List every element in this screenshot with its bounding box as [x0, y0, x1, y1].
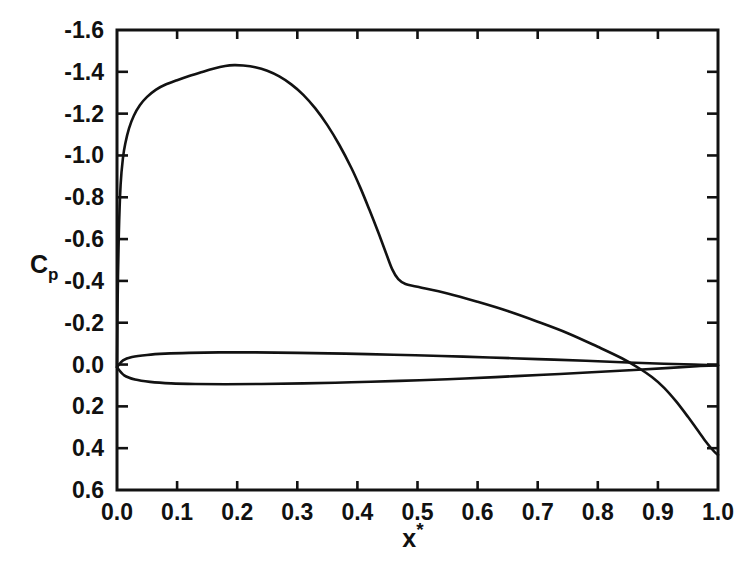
y-axis-title: Cp [30, 250, 58, 284]
x-tick-label-9: 0.9 [642, 499, 674, 525]
x-tick-label-6: 0.6 [462, 499, 494, 525]
y-tick-label-10: 0.4 [72, 435, 104, 461]
y-tick-label-7: -0.2 [64, 310, 104, 336]
curve-lens-lower-branch [117, 365, 718, 384]
x-tick-label-3: 0.3 [281, 499, 313, 525]
y-tick-label-2: -1.2 [64, 101, 104, 127]
plot-canvas: -1.6-1.4-1.2-1.0-0.8-0.6-0.4-0.20.00.20.… [0, 0, 747, 564]
y-tick-label-4: -0.8 [64, 184, 104, 210]
curve-lens-upper-branch [117, 352, 718, 367]
x-tick-label-10: 1.0 [702, 499, 734, 525]
x-axis-title: x* [402, 519, 424, 552]
x-tick-label-2: 0.2 [221, 499, 253, 525]
y-tick-label-0: -1.6 [64, 17, 104, 43]
data-curves [117, 65, 718, 455]
plot-frame [117, 30, 718, 490]
y-tick-label-8: 0.0 [72, 352, 104, 378]
x-tick-label-0: 0.0 [101, 499, 133, 525]
y-tick-label-3: -1.0 [64, 142, 104, 168]
curve-upper-surface-suction-peak [117, 65, 718, 455]
y-tick-label-11: 0.6 [72, 477, 104, 503]
y-tick-label-9: 0.2 [72, 393, 104, 419]
y-tick-label-6: -0.4 [64, 268, 104, 294]
x-tick-label-1: 0.1 [161, 499, 193, 525]
y-tick-label-5: -0.6 [64, 226, 104, 252]
x-tick-label-8: 0.8 [582, 499, 614, 525]
x-tick-label-4: 0.4 [341, 499, 373, 525]
x-tick-label-7: 0.7 [522, 499, 554, 525]
figure-root: -1.6-1.4-1.2-1.0-0.8-0.6-0.4-0.20.00.20.… [0, 0, 747, 564]
y-axis-tick-label-group: -1.6-1.4-1.2-1.0-0.8-0.6-0.4-0.20.00.20.… [64, 17, 104, 503]
axis-tick-marks [117, 30, 718, 490]
y-tick-label-1: -1.4 [64, 59, 104, 85]
